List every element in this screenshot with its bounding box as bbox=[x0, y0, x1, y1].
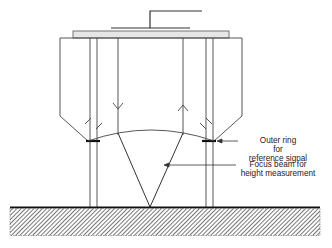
inner-tubes bbox=[90, 38, 213, 207]
label-line: for bbox=[228, 145, 328, 154]
lens-arc bbox=[88, 130, 214, 141]
housing bbox=[60, 38, 242, 141]
arrowhead-icon bbox=[217, 139, 222, 143]
label-line: Outer ring bbox=[228, 136, 328, 145]
beam-lines bbox=[113, 38, 188, 135]
focus-cone bbox=[118, 133, 183, 207]
ground-surface bbox=[10, 209, 320, 236]
arrowhead-icon bbox=[164, 163, 169, 167]
label-line: Focus beam for bbox=[228, 160, 328, 169]
mounting-bracket bbox=[111, 11, 202, 28]
label-line: height measurement bbox=[228, 169, 328, 178]
leader-lines bbox=[164, 139, 238, 167]
reference-signal-arrows bbox=[85, 118, 212, 129]
top-plate bbox=[73, 31, 229, 38]
sensor-diagram bbox=[0, 0, 332, 248]
focus-beam-label: Focus beam for height measurement bbox=[228, 160, 328, 178]
